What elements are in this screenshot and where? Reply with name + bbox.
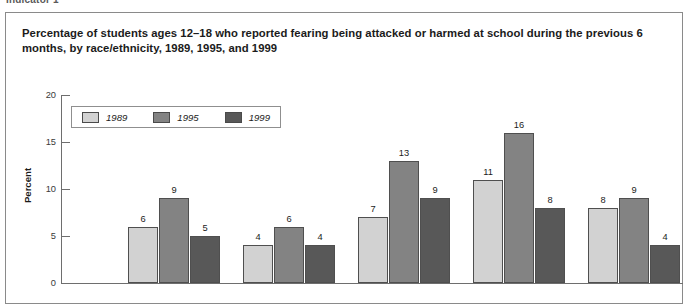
y-tick-15 [61, 142, 70, 143]
bar-value-label-1989-group-1: 6 [128, 214, 158, 224]
bar-value-label-1999-group-4: 8 [535, 195, 565, 205]
bar-value-label-1989-group-4: 11 [473, 167, 503, 177]
bar-value-label-1995-group-5: 9 [619, 185, 649, 195]
legend-label-1995: 1995 [177, 112, 198, 123]
bar-1995-group-4 [504, 133, 534, 283]
bar-1989-group-2 [243, 245, 273, 283]
bar-value-label-1995-group-2: 6 [274, 214, 304, 224]
bar-1999-group-1 [190, 236, 220, 283]
bar-1995-group-3 [389, 161, 419, 283]
chart-legend: 1989 1995 1999 [71, 106, 281, 128]
bar-1999-group-2 [305, 245, 335, 283]
bar-value-label-1989-group-3: 7 [358, 204, 388, 214]
y-tick-5 [61, 236, 70, 237]
bar-value-label-1995-group-3: 13 [389, 148, 419, 158]
legend-swatch-1999 [225, 112, 242, 123]
y-tick-label-20: 20 [22, 90, 56, 100]
bar-1989-group-5 [588, 208, 618, 283]
bar-value-label-1995-group-1: 9 [159, 185, 189, 195]
bar-value-label-1999-group-3: 9 [420, 185, 450, 195]
x-axis-baseline [61, 283, 683, 284]
y-tick-label-15: 15 [22, 137, 56, 147]
bar-1989-group-1 [128, 227, 158, 283]
legend-item-1989: 1989 [82, 112, 127, 123]
bar-1989-group-4 [473, 180, 503, 283]
bar-1995-group-5 [619, 198, 649, 283]
bar-value-label-1999-group-5: 4 [650, 232, 680, 242]
bar-1999-group-4 [535, 208, 565, 283]
y-tick-label-5: 5 [22, 231, 56, 241]
bar-value-label-1989-group-2: 4 [243, 232, 273, 242]
y-tick-0 [61, 283, 70, 284]
bar-value-label-1999-group-1: 5 [190, 223, 220, 233]
bar-value-label-1995-group-4: 16 [504, 120, 534, 130]
bar-1995-group-1 [159, 198, 189, 283]
legend-item-1999: 1999 [225, 112, 270, 123]
legend-swatch-1989 [82, 112, 99, 123]
bar-value-label-1989-group-5: 8 [588, 195, 618, 205]
bar-value-label-1999-group-2: 4 [305, 232, 335, 242]
legend-item-1995: 1995 [153, 112, 198, 123]
y-tick-10 [61, 189, 70, 190]
legend-label-1999: 1999 [249, 112, 270, 123]
bar-1995-group-2 [274, 227, 304, 283]
legend-swatch-1995 [153, 112, 170, 123]
bar-1999-group-3 [420, 198, 450, 283]
legend-label-1989: 1989 [106, 112, 127, 123]
y-tick-label-0: 0 [22, 278, 56, 288]
bar-1989-group-3 [358, 217, 388, 283]
y-tick-label-10: 10 [22, 184, 56, 194]
bar-1999-group-5 [650, 245, 680, 283]
y-tick-20 [61, 95, 70, 96]
